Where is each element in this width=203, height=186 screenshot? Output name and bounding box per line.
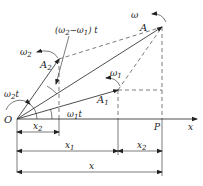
diagram-canvas: ω A (ω2−ω1) t ω2 A2 ω1 A1 ω2t ω1t O P x …	[0, 0, 203, 186]
label-x2-right: x2	[137, 140, 147, 152]
label-x-axis: x	[188, 122, 193, 132]
label-x2-left: x2	[33, 121, 43, 133]
label-x-total: x	[89, 161, 94, 171]
label-P: P	[153, 122, 161, 132]
label-A: A	[139, 22, 147, 33]
label-diff-angle: (ω2−ω1) t	[55, 25, 98, 37]
label-omega2t: ω2t	[4, 89, 19, 101]
label-x1: x1	[65, 140, 75, 152]
omega1t-arc	[51, 109, 53, 119]
phasor-A	[17, 27, 162, 119]
phasor-A2	[17, 59, 59, 119]
dashed-A1-to-A	[118, 27, 162, 90]
label-omega2: ω2	[20, 47, 32, 59]
phasor-diagram: ω A (ω2−ω1) t ω2 A2 ω1 A1 ω2t ω1t O P x …	[0, 0, 203, 186]
diff-angle-arc	[47, 86, 57, 94]
label-origin-O: O	[4, 114, 12, 125]
label-A1: A1	[96, 94, 109, 107]
omega2-rotation-arrow	[37, 51, 58, 58]
label-A2: A2	[39, 59, 52, 72]
omega-rotation-arrow	[152, 14, 166, 22]
label-omega: ω	[131, 10, 139, 20]
